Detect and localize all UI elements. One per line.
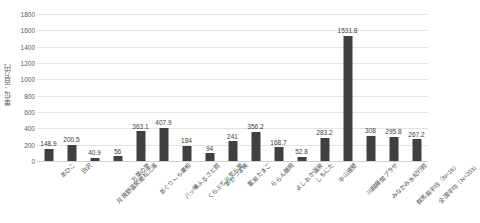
y-axis-title: 単位：百万円 bbox=[2, 42, 13, 128]
y-axis-tick-800: 800 bbox=[24, 92, 35, 99]
bar bbox=[251, 132, 260, 161]
plot-area: 148.9200.540.956363.1407.918494241356.21… bbox=[37, 14, 428, 161]
y-axis-tick-1200: 1200 bbox=[21, 60, 35, 67]
x-axis-label: あひこ bbox=[59, 162, 77, 180]
bar bbox=[297, 157, 306, 161]
x-axis-label: 月夜野温泉郷松之湯 bbox=[115, 162, 158, 205]
bar-slot: 308 bbox=[359, 14, 382, 161]
bar bbox=[366, 136, 375, 161]
bar bbox=[205, 153, 214, 161]
bar bbox=[113, 156, 122, 161]
bar bbox=[67, 145, 76, 161]
y-axis-tick-200: 200 bbox=[24, 141, 35, 148]
y-axis-tick-1600: 1600 bbox=[21, 27, 35, 34]
bar-value-label: 283.2 bbox=[316, 129, 332, 136]
bar-slot: 148.9 bbox=[37, 14, 60, 161]
bar-value-label: 184 bbox=[181, 137, 192, 144]
bar bbox=[412, 139, 421, 161]
bar-slot: 267.2 bbox=[405, 14, 428, 161]
bar-value-label: 407.9 bbox=[155, 119, 171, 126]
bar-slot: 40.9 bbox=[83, 14, 106, 161]
bar-slot: 94 bbox=[198, 14, 221, 161]
y-axis-tick-1400: 1400 bbox=[21, 43, 35, 50]
bar-slot: 184 bbox=[175, 14, 198, 161]
bar-slot: 295.8 bbox=[382, 14, 405, 161]
bar-value-label: 148.9 bbox=[40, 140, 56, 147]
bars-layer: 148.9200.540.956363.1407.918494241356.21… bbox=[37, 14, 428, 161]
x-axis-label: ららん藤岡 bbox=[269, 162, 295, 188]
bar-value-label: 295.8 bbox=[385, 128, 401, 135]
y-axis-tick-1800: 1800 bbox=[21, 11, 35, 18]
x-axis-label: 中山道壁 bbox=[337, 162, 359, 184]
y-axis-tick-600: 600 bbox=[24, 109, 35, 116]
bar-slot: 283.2 bbox=[313, 14, 336, 161]
x-axis-tick-labels: あひこ白沢月夜野温泉郷松之湯万葉の里あぐり～ら東和八ッ場ふるさと館くらぶち元気ら… bbox=[37, 162, 428, 223]
bar-slot: 363.1 bbox=[129, 14, 152, 161]
bar bbox=[44, 149, 53, 161]
bar-value-label: 52.8 bbox=[295, 148, 308, 155]
bar-slot: 356.2 bbox=[244, 14, 267, 161]
bar bbox=[159, 128, 168, 161]
y-axis-tick-0: 0 bbox=[31, 158, 35, 165]
bar bbox=[90, 158, 99, 161]
bar-value-label: 1531.8 bbox=[338, 27, 358, 34]
y-axis-tick-labels: 020040060080010001200140016001800 bbox=[13, 14, 35, 161]
bar-value-label: 168.7 bbox=[270, 139, 286, 146]
bar-value-label: 241 bbox=[227, 133, 238, 140]
bar-value-label: 356.2 bbox=[247, 123, 263, 130]
bar-slot: 407.9 bbox=[152, 14, 175, 161]
bar-slot: 168.7 bbox=[267, 14, 290, 161]
bar bbox=[343, 36, 352, 161]
bar-value-label: 308 bbox=[365, 127, 376, 134]
bar-slot: 52.8 bbox=[290, 14, 313, 161]
bar bbox=[136, 131, 145, 161]
bar-value-label: 267.2 bbox=[408, 131, 424, 138]
bar-slot: 56 bbox=[106, 14, 129, 161]
bar bbox=[274, 147, 283, 161]
x-axis-label: 白沢 bbox=[80, 162, 93, 175]
y-axis-tick-1000: 1000 bbox=[21, 76, 35, 83]
bar bbox=[389, 137, 398, 161]
bar bbox=[182, 146, 191, 161]
bar bbox=[320, 138, 329, 161]
bar-slot: 1531.8 bbox=[336, 14, 359, 161]
bar-value-label: 94 bbox=[206, 145, 213, 152]
bar-value-label: 56 bbox=[114, 148, 121, 155]
y-axis-tick-400: 400 bbox=[24, 125, 35, 132]
bar-value-label: 363.1 bbox=[132, 123, 148, 130]
x-axis-label: 霊泉たまご bbox=[246, 162, 272, 188]
bar-slot: 241 bbox=[221, 14, 244, 161]
bar-value-label: 200.5 bbox=[63, 136, 79, 143]
bar-value-label: 40.9 bbox=[88, 149, 101, 156]
bar bbox=[228, 141, 237, 161]
bar-slot: 200.5 bbox=[60, 14, 83, 161]
